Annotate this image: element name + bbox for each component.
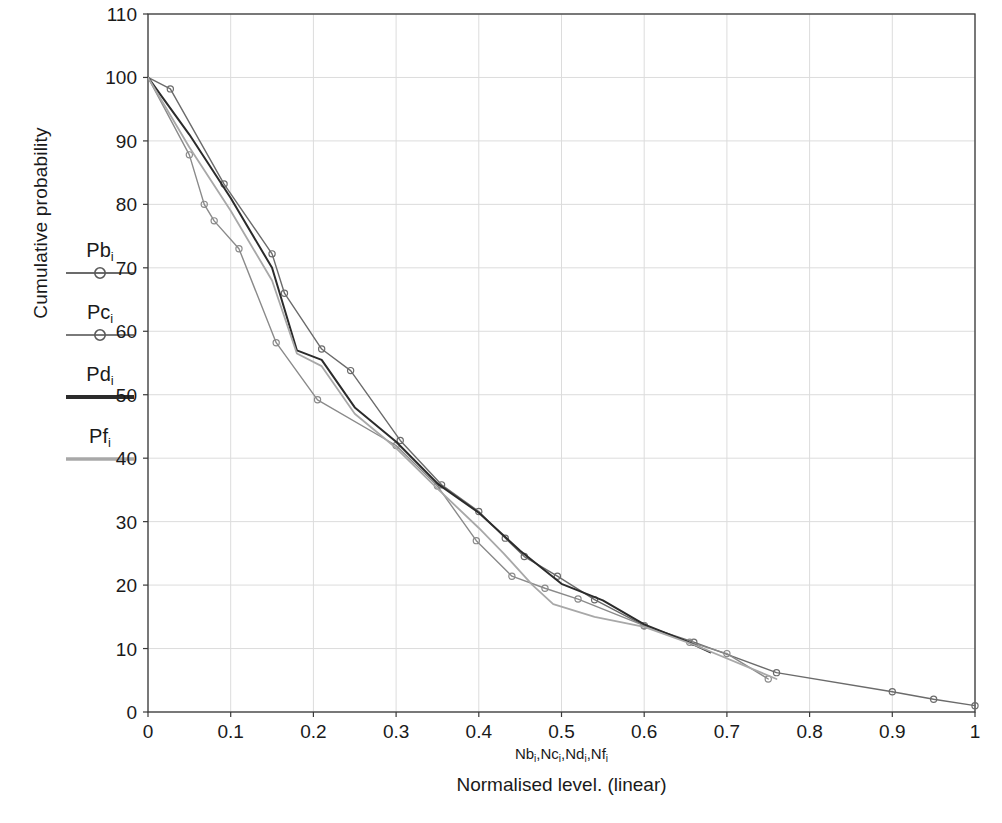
x-axis-ticks: 00.10.20.30.40.50.60.70.80.91 — [143, 712, 981, 742]
x-axis-caption: Normalised level. (linear) — [148, 774, 975, 796]
y-tick-label: 80 — [116, 194, 137, 215]
x-tick-label: 0.3 — [383, 721, 409, 742]
y-tick-label: 90 — [116, 131, 137, 152]
y-tick-label: 10 — [116, 639, 137, 660]
y-tick-label: 100 — [105, 67, 137, 88]
x-tick-label: 0.9 — [879, 721, 905, 742]
y-tick-label: 20 — [116, 575, 137, 596]
y-tick-label: 50 — [116, 385, 137, 406]
x-axis-label-block: Nbi,Nci,Ndi,Nfi Normalised level. (linea… — [148, 745, 975, 796]
y-tick-label: 30 — [116, 512, 137, 533]
plot-area: 00.10.20.30.40.50.60.70.80.9101020304050… — [0, 0, 1002, 760]
x-tick-label: 0 — [143, 721, 154, 742]
x-tick-label: 0.2 — [300, 721, 326, 742]
x-tick-label: 0.7 — [714, 721, 740, 742]
series-pf — [148, 77, 777, 679]
y-tick-label: 0 — [126, 702, 137, 723]
series-line-pd — [148, 77, 710, 652]
series-line-pf — [148, 77, 777, 679]
x-tick-label: 0.5 — [548, 721, 574, 742]
y-axis-ticks: 0102030405060708090100110 — [105, 4, 148, 723]
x-tick-label: 0.4 — [466, 721, 493, 742]
x-tick-label: 0.1 — [217, 721, 243, 742]
series-pb — [148, 77, 978, 708]
y-tick-label: 110 — [107, 4, 137, 25]
x-tick-label: 0.8 — [796, 721, 822, 742]
y-tick-label: 40 — [116, 448, 137, 469]
x-axis-symbols: Nbi,Nci,Ndi,Nfi — [148, 745, 975, 762]
series-pd — [148, 77, 710, 652]
series-pc — [148, 77, 771, 682]
series-line-pc — [148, 77, 768, 679]
chart-figure: Cumulative probability Pbi Pci Pdi — [0, 0, 1002, 823]
y-tick-label: 60 — [116, 321, 137, 342]
x-tick-label: 0.6 — [631, 721, 657, 742]
y-tick-label: 70 — [116, 258, 137, 279]
x-tick-label: 1 — [970, 721, 981, 742]
